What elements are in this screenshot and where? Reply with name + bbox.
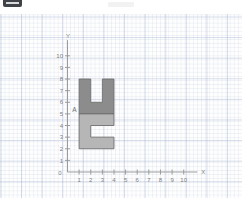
x-tick-label: 5 [124,177,128,183]
x-tick-label: 9 [170,177,174,183]
y-tick-label: 6 [60,99,64,105]
x-tick-label: 6 [136,177,140,183]
x-tick-label: 3 [101,177,105,183]
y-tick-label: 2 [60,146,64,152]
x-tick-label: 7 [147,177,151,183]
y-axis-title: Y [66,33,70,39]
coordinate-plot: 01234567891012345678910YXA [0,0,242,198]
shapes-layer [79,79,114,149]
y-tick-label: 0 [58,170,62,176]
y-tick-label: 1 [60,158,64,164]
x-tick-label: 8 [159,177,163,183]
point-label-a: A [72,106,77,113]
y-tick-label: 3 [60,134,64,140]
y-tick-label: 9 [60,65,64,71]
labels-layer: 01234567891012345678910YXA [56,33,205,183]
x-tick-label: 4 [112,177,116,183]
x-axis-title: X [201,169,205,175]
y-tick-label: 7 [60,88,64,94]
upper-u-shape [79,79,114,114]
y-tick-label: 5 [60,111,64,117]
y-tick-label: 4 [60,123,64,129]
y-tick-label: 8 [60,76,64,82]
x-tick-label: 1 [77,177,81,183]
x-tick-label: 2 [89,177,93,183]
x-tick-label: 10 [180,177,187,183]
lower-c-shape [79,114,114,149]
y-tick-label: 10 [56,53,63,59]
